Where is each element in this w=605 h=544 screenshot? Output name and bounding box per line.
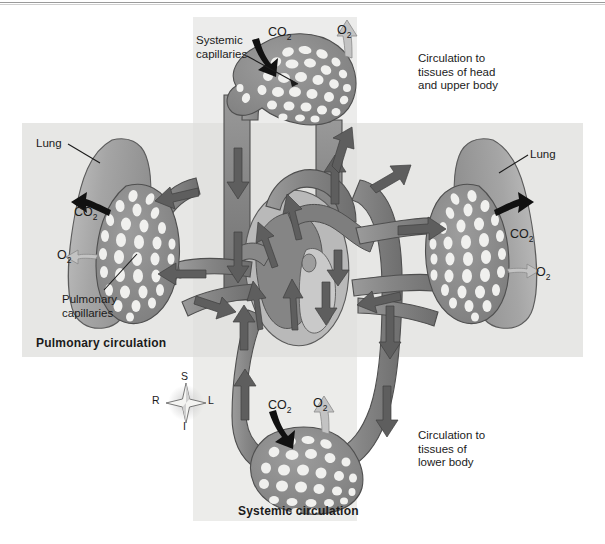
label-co2-right-lung: CO2 [510, 227, 533, 244]
co2-text: CO [74, 205, 93, 219]
o2-text: O [57, 248, 67, 262]
label-o2-right-lung: O2 [536, 265, 550, 282]
o2-subscript: 2 [67, 255, 72, 265]
co2-subscript: 2 [529, 234, 534, 244]
label-co2-lower-tissues: CO2 [268, 398, 291, 415]
o2-subscript: 2 [347, 30, 352, 40]
label-circulation-head-upper-body: Circulation to tissues of head and upper… [418, 52, 498, 93]
co2-subscript: 2 [287, 32, 292, 42]
co2-text: CO [510, 227, 529, 241]
compass-inferior: I [183, 420, 186, 432]
co2-text: CO [268, 398, 287, 412]
compass-right: R [152, 394, 160, 406]
label-circulation-lower-body: Circulation to tissues of lower body [418, 429, 485, 470]
orientation-compass: S I R L [150, 372, 222, 434]
o2-text: O [536, 265, 546, 279]
leader-lung-left [68, 144, 100, 163]
flow-arrow-to-right-lung-2 [370, 165, 411, 193]
label-systemic-capillaries: Systemic capillaries [196, 34, 247, 61]
label-o2-upper-tissues: O2 [337, 23, 351, 40]
compass-superior: S [181, 370, 188, 382]
o2-subscript: 2 [323, 403, 328, 413]
figure-canvas: Systemic capillaries CO2 O2 Circulation … [0, 0, 605, 544]
label-systemic-circulation: Systemic circulation [238, 504, 359, 518]
label-o2-left-lung: O2 [57, 248, 71, 265]
label-pulmonary-capillaries: Pulmonary capillaries [62, 293, 117, 320]
capillary-bed-systemic-lower [250, 427, 362, 514]
co2-subscript: 2 [287, 405, 292, 415]
label-lung-right: Lung [530, 148, 556, 162]
o2-text: O [337, 23, 347, 37]
label-co2-upper-tissues: CO2 [268, 25, 291, 42]
label-co2-left-lung: CO2 [74, 205, 97, 222]
co2-subscript: 2 [93, 212, 98, 222]
o2-text: O [313, 396, 323, 410]
co2-text: CO [268, 25, 287, 39]
compass-left: L [208, 394, 214, 406]
o2-subscript: 2 [546, 272, 551, 282]
label-lung-left: Lung [36, 137, 62, 151]
label-pulmonary-circulation: Pulmonary circulation [36, 336, 166, 350]
circulatory-system-artwork [0, 0, 605, 544]
label-o2-lower-tissues: O2 [313, 396, 327, 413]
